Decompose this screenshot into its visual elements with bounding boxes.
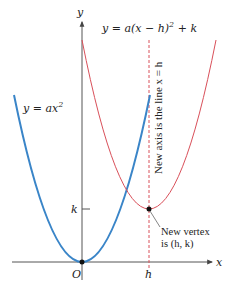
vertex-annotation-line1: New vertex (161, 226, 210, 237)
vertex-annotation-line2: is (h, k) (161, 238, 194, 250)
origin-point (80, 260, 85, 265)
y-axis-label: y (76, 6, 84, 19)
translated-equation: y = a(x − h)2 + k (101, 20, 197, 35)
k-label: k (71, 203, 78, 216)
parabola-diagram: y x O h k y = ax2 y = a(x − h)2 + k New … (0, 0, 237, 290)
axis-of-symmetry-label: New axis is the line x = h (152, 61, 164, 174)
origin-label: O (72, 268, 81, 281)
vertex-pointer (150, 211, 160, 227)
h-label: h (145, 268, 152, 281)
x-axis-label: x (216, 256, 223, 269)
original-equation: y = ax2 (22, 100, 63, 115)
vertex-point (147, 207, 152, 212)
